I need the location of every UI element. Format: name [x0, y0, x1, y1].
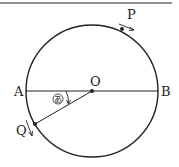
- center-point-O: [90, 89, 94, 93]
- radius-OQ: [35, 91, 92, 124]
- point-P: [120, 27, 124, 31]
- label-O: O: [90, 74, 101, 89]
- label-B: B: [161, 84, 171, 99]
- p-arrowhead-icon: [129, 27, 134, 31]
- label-P: P: [127, 7, 136, 22]
- circle-diagram: P A B O Q あ: [0, 0, 179, 167]
- q-direction-arrow: [26, 120, 32, 136]
- point-Q: [33, 122, 37, 126]
- angle-label: あ: [54, 95, 62, 104]
- label-A: A: [13, 84, 24, 99]
- label-Q: Q: [16, 123, 27, 138]
